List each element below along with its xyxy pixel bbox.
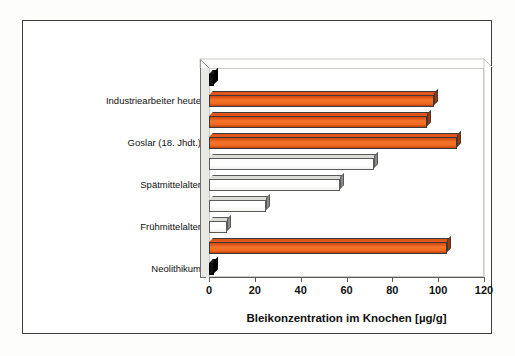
bar-row xyxy=(209,263,484,275)
bar-row xyxy=(209,179,484,191)
bar-side-face xyxy=(340,173,344,189)
bar xyxy=(209,221,227,233)
x-axis-tick-label: 0 xyxy=(206,284,212,296)
x-axis-tick xyxy=(301,277,302,282)
x-axis-tick xyxy=(209,277,210,282)
plot-left-wall xyxy=(200,68,209,277)
bar-row xyxy=(209,74,484,86)
category-label: Spätmittelalter xyxy=(140,180,201,190)
bar-row xyxy=(209,116,484,128)
bar-side-face xyxy=(427,110,431,126)
bar-side-face xyxy=(434,89,438,105)
x-axis-tick-label: 60 xyxy=(340,284,352,296)
bar-row xyxy=(209,158,484,170)
bar-side-face xyxy=(266,194,270,210)
x-axis-title: Bleikonzentration im Knochen [µg/g] xyxy=(209,312,484,324)
bar xyxy=(209,116,427,128)
bar-row xyxy=(209,137,484,149)
bar-side-face xyxy=(214,257,218,273)
bar-row xyxy=(209,95,484,107)
bar-side-face xyxy=(214,68,218,84)
bar xyxy=(209,158,374,170)
bar-side-face xyxy=(457,131,461,147)
x-axis-tick-label: 40 xyxy=(295,284,307,296)
bar xyxy=(209,200,266,212)
x-axis-tick xyxy=(347,277,348,282)
figure-border: Industriearbeiter heuteGoslar (18. Jhdt.… xyxy=(22,20,492,334)
y-axis-category-labels: Industriearbeiter heuteGoslar (18. Jhdt.… xyxy=(23,68,201,277)
x-axis: 020406080100120 xyxy=(209,277,484,278)
bar xyxy=(209,137,457,149)
category-label: Goslar (18. Jhdt.) xyxy=(128,138,201,148)
bar-row xyxy=(209,242,484,254)
plot-wall-top-corner xyxy=(200,59,209,68)
bar xyxy=(209,179,340,191)
x-axis-tick-label: 120 xyxy=(475,284,493,296)
bar xyxy=(209,263,214,275)
bar xyxy=(209,95,434,107)
category-label: Frühmittelalter xyxy=(140,222,201,232)
chart-figure: Industriearbeiter heuteGoslar (18. Jhdt.… xyxy=(0,0,515,356)
plot-area xyxy=(209,68,484,277)
category-label: Industriearbeiter heute xyxy=(106,96,201,106)
bar-side-face xyxy=(447,236,451,252)
bar xyxy=(209,242,447,254)
x-axis-tick-label: 80 xyxy=(386,284,398,296)
x-axis-tick-label: 20 xyxy=(249,284,261,296)
x-axis-tick xyxy=(438,277,439,282)
bar-side-face xyxy=(227,215,231,231)
y-axis-tick xyxy=(200,277,206,278)
x-axis-tick xyxy=(255,277,256,282)
x-axis-tick xyxy=(392,277,393,282)
x-axis-tick xyxy=(484,277,485,282)
bar xyxy=(209,74,214,86)
x-axis-tick-label: 100 xyxy=(429,284,447,296)
category-label: Neolithikum xyxy=(151,264,201,274)
bar-row xyxy=(209,200,484,212)
bar-side-face xyxy=(374,152,378,168)
bar-row xyxy=(209,221,484,233)
